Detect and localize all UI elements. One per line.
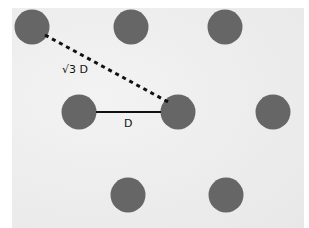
lattice-dot <box>209 178 244 213</box>
lattice-dot <box>111 178 146 213</box>
lattice-dot <box>15 10 50 45</box>
lattice-dot <box>114 10 149 45</box>
lattice-dot <box>256 95 291 130</box>
diagonal-distance-label: √3 D <box>62 63 88 76</box>
lattice-diagram: √3 D D <box>0 0 309 228</box>
lattice-dot <box>62 95 97 130</box>
lattice-dot <box>208 10 243 45</box>
horizontal-distance-label: D <box>124 117 132 130</box>
